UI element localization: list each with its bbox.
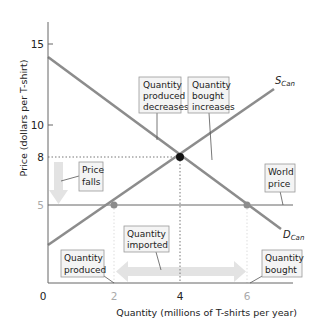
svg-text:Quantity: Quantity bbox=[127, 229, 167, 239]
demand-label: DCan bbox=[283, 229, 304, 242]
svg-text:Quantity: Quantity bbox=[64, 253, 104, 263]
box-quantity-bought: Quantity bought bbox=[262, 250, 305, 277]
svg-text:bought: bought bbox=[265, 265, 297, 275]
box-quantity-produced-decreases: Quantity produced decreases bbox=[139, 77, 189, 113]
svg-text:Price: Price bbox=[82, 165, 104, 175]
svg-text:decreases: decreases bbox=[143, 102, 189, 112]
box-world-price: World price bbox=[265, 164, 295, 192]
svg-text:produced: produced bbox=[64, 265, 106, 275]
x-tick-6: 6 bbox=[244, 290, 251, 302]
chart: 15 10 8 5 0 2 4 6 Quantity (millions of … bbox=[0, 0, 319, 322]
svg-text:World: World bbox=[268, 167, 294, 177]
world-produced-point bbox=[111, 202, 118, 209]
svg-text:falls: falls bbox=[82, 177, 101, 187]
supply-label: SCan bbox=[275, 75, 295, 88]
y-tick-5: 5 bbox=[37, 199, 44, 211]
y-tick-10: 10 bbox=[31, 119, 44, 131]
x-tick-2: 2 bbox=[111, 290, 118, 302]
box-quantity-imported: Quantity imported bbox=[124, 226, 169, 252]
y-axis-title: Price (dollars per T-shirt) bbox=[18, 60, 29, 177]
box-quantity-bought-increases: Quantity bought increases bbox=[188, 77, 235, 113]
origin-label: 0 bbox=[40, 290, 47, 302]
svg-text:Quantity: Quantity bbox=[265, 253, 305, 263]
x-axis-title: Quantity (millions of T-shirts per year) bbox=[116, 307, 297, 318]
svg-text:Quantity: Quantity bbox=[143, 80, 183, 90]
y-tick-15: 15 bbox=[31, 38, 44, 50]
box-price-falls: Price falls bbox=[79, 162, 104, 191]
price-falls-arrow bbox=[49, 162, 68, 204]
svg-text:Quantity: Quantity bbox=[192, 80, 232, 90]
svg-text:produced: produced bbox=[143, 91, 185, 101]
equilibrium-point bbox=[176, 153, 184, 161]
svg-text:bought: bought bbox=[192, 91, 224, 101]
svg-text:price: price bbox=[268, 179, 291, 189]
box-quantity-produced: Quantity produced bbox=[61, 250, 106, 277]
axes bbox=[48, 22, 293, 283]
world-bought-point bbox=[244, 202, 251, 209]
svg-text:increases: increases bbox=[192, 102, 235, 112]
quantity-imported-arrow bbox=[116, 261, 246, 282]
x-tick-4: 4 bbox=[177, 290, 184, 302]
svg-text:imported: imported bbox=[127, 240, 168, 250]
y-tick-8: 8 bbox=[37, 151, 44, 163]
